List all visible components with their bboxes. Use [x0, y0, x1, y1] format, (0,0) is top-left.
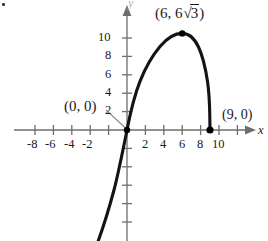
y-tick-label-10: 10 — [98, 31, 111, 44]
radical-group: √3 — [183, 4, 200, 22]
x-tick-label-8: 8 — [197, 138, 203, 151]
graph-figure: y 10 8 6 4 2 -8 -6 -4 -2 2 4 6 8 10 x (0… — [0, 0, 268, 241]
origin-point-marker — [124, 127, 130, 133]
x-tick-label-6: 6 — [179, 138, 185, 151]
curve-helper — [119, 173, 127, 241]
x-tick-label-minus2: -2 — [82, 138, 92, 151]
x-tick-label-minus6: -6 — [45, 138, 55, 151]
x-tick-label-minus4: -4 — [64, 138, 74, 151]
maximum-label-suffix: ) — [199, 5, 204, 21]
y-tick-label-2: 2 — [105, 104, 111, 117]
x-intercept-point-marker — [206, 126, 213, 133]
x-tick-label-2: 2 — [142, 138, 148, 151]
x-axis-label: x — [258, 124, 264, 137]
curve-path — [98, 33, 210, 241]
origin-point-label: (0, 0) — [64, 99, 97, 114]
x-axis-arrowhead — [245, 126, 256, 135]
y-tick-label-4: 4 — [105, 86, 111, 99]
radicand-value: 3 — [190, 4, 199, 22]
x-intercept-point-label: (9, 0) — [222, 108, 252, 122]
axes-group — [14, 5, 256, 241]
y-axis-label: y — [128, 0, 133, 11]
y-tick-label-8: 8 — [105, 49, 111, 62]
x-tick-label-10: 10 — [212, 138, 225, 151]
maximum-point-marker — [179, 30, 185, 36]
maximum-label-prefix: (6, 6 — [155, 5, 183, 21]
y-tick-label-6: 6 — [105, 68, 111, 81]
x-tick-label-minus8: -8 — [27, 138, 37, 151]
maximum-point-label: (6, 6√3) — [155, 4, 204, 22]
x-tick-label-4: 4 — [160, 138, 166, 151]
